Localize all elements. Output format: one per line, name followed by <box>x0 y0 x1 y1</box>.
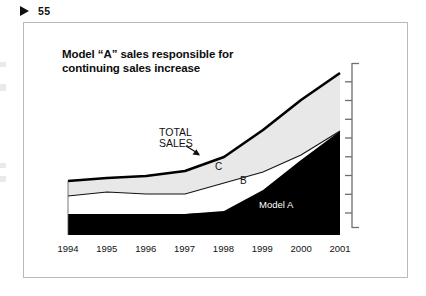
annotation-band-b: B <box>240 175 247 186</box>
x-axis-label: 1999 <box>252 243 273 254</box>
x-axis-label: 1996 <box>135 243 156 254</box>
x-axis-label: 2001 <box>329 243 350 254</box>
x-axis-label: 2000 <box>291 243 312 254</box>
annotation-band-c: C <box>215 161 222 172</box>
annotation-total-sales: TOTAL SALES <box>159 127 193 149</box>
x-axis-label: 1994 <box>57 243 78 254</box>
x-axis-label: 1997 <box>174 243 195 254</box>
page-canvas: 55 Model “A” sales responsible for conti… <box>0 0 426 296</box>
annotation-total-sales-line2: SALES <box>159 138 193 149</box>
x-axis-label: 1998 <box>213 243 234 254</box>
annotation-band-a: Model A <box>259 199 293 210</box>
x-axis-labels: 19941995199619971998199920002001 <box>0 243 426 257</box>
x-axis-label: 1995 <box>96 243 117 254</box>
y-axis-ticks <box>345 82 352 213</box>
